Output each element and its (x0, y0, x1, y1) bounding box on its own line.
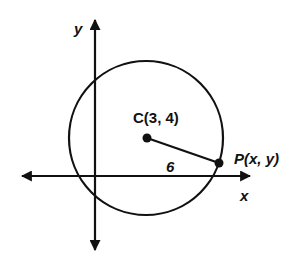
x-axis-label: x (239, 187, 249, 204)
point-label: P(x, y) (234, 150, 279, 167)
center-point (143, 134, 152, 143)
radius-segment (147, 138, 219, 163)
y-axis-label: y (73, 20, 83, 37)
center-label: C(3, 4) (133, 109, 179, 126)
circle-diagram: y x C(3, 4) P(x, y) 6 (0, 0, 304, 264)
radius-label: 6 (166, 158, 175, 175)
point-p (215, 159, 224, 168)
